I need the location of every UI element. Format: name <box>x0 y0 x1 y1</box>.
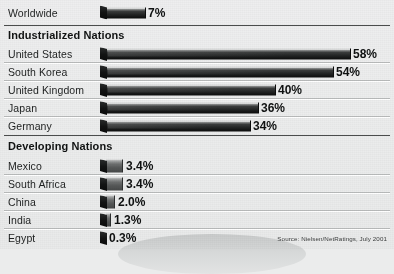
bar-cap-icon <box>100 101 107 115</box>
row-value-india: 1.3% <box>114 213 141 227</box>
bar-fill <box>106 49 351 60</box>
chart-row-united-kingdom: United Kingdom 40% <box>0 81 394 99</box>
chart-row-south-korea: South Korea 54% <box>0 63 394 81</box>
bar-fill <box>106 121 251 132</box>
bar-fill <box>106 160 123 173</box>
bar-fill <box>106 67 334 78</box>
section-title-developing: Developing Nations <box>8 140 112 152</box>
row-label-south-africa: South Africa <box>8 178 66 190</box>
row-label-mexico: Mexico <box>8 160 42 172</box>
row-value-china: 2.0% <box>118 195 145 209</box>
bar-mexico <box>100 161 123 172</box>
row-value-south-africa: 3.4% <box>126 177 153 191</box>
row-label-india: India <box>8 214 31 226</box>
bar-cap-icon <box>100 65 107 79</box>
bar-cap-icon <box>100 213 107 227</box>
bar-japan <box>100 103 259 114</box>
row-value-united-kingdom: 40% <box>278 83 302 97</box>
row-value-worldwide: 7% <box>148 6 165 20</box>
bar-fill <box>106 196 115 209</box>
bar-south-africa <box>100 179 123 190</box>
source-note: Source: Nielsen/NetRatings, July 2001 <box>277 235 387 242</box>
row-value-egypt: 0.3% <box>109 231 136 245</box>
chart-row-germany: Germany 34% <box>0 117 394 135</box>
row-label-worldwide: Worldwide <box>8 7 58 19</box>
chart-row-south-africa: South Africa 3.4% <box>0 175 394 193</box>
row-label-united-states: United States <box>8 48 72 60</box>
bar-united-states <box>100 49 351 60</box>
row-label-south-korea: South Korea <box>8 66 67 78</box>
bar-cap-icon <box>100 83 107 97</box>
bar-cap-icon <box>100 231 107 245</box>
chart-row-japan: Japan 36% <box>0 99 394 117</box>
row-label-china: China <box>8 196 36 208</box>
row-value-south-korea: 54% <box>336 65 360 79</box>
chart-row-united-states: United States 58% <box>0 45 394 63</box>
bar-fill <box>106 178 123 191</box>
section-header-developing: Developing Nations <box>0 135 394 157</box>
chart-row-india: India 1.3% <box>0 211 394 229</box>
bar-cap-icon <box>100 47 107 61</box>
row-label-germany: Germany <box>8 120 52 132</box>
bar-fill <box>106 7 146 18</box>
bar-worldwide <box>100 7 146 18</box>
chart-row-china: China 2.0% <box>0 193 394 211</box>
row-label-egypt: Egypt <box>8 232 35 244</box>
row-label-japan: Japan <box>8 102 37 114</box>
bar-cap-icon <box>100 119 107 133</box>
row-value-japan: 36% <box>261 101 285 115</box>
bar-fill <box>106 103 259 114</box>
bar-germany <box>100 121 251 132</box>
bar-south-korea <box>100 67 334 78</box>
row-value-mexico: 3.4% <box>126 159 153 173</box>
bar-cap-icon <box>100 159 107 173</box>
row-value-united-states: 58% <box>353 47 377 61</box>
chart-rows: Worldwide 7% Industrialized Nations Unit… <box>0 0 394 247</box>
section-header-industrialized: Industrialized Nations <box>0 25 394 45</box>
bar-china <box>100 197 115 208</box>
bar-egypt <box>100 233 106 244</box>
bar-cap-icon <box>100 195 107 209</box>
row-label-united-kingdom: United Kingdom <box>8 84 84 96</box>
bar-india <box>100 215 111 226</box>
chart-row-worldwide: Worldwide 7% <box>0 0 394 25</box>
chart-row-egypt: Egypt 0.3% Source: Nielsen/NetRatings, J… <box>0 229 394 247</box>
bar-united-kingdom <box>100 85 276 96</box>
bar-cap-icon <box>100 6 107 20</box>
section-title-industrialized: Industrialized Nations <box>8 29 125 41</box>
bar-fill <box>106 85 276 96</box>
bar-cap-icon <box>100 177 107 191</box>
row-value-germany: 34% <box>253 119 277 133</box>
chart-row-mexico: Mexico 3.4% <box>0 157 394 175</box>
